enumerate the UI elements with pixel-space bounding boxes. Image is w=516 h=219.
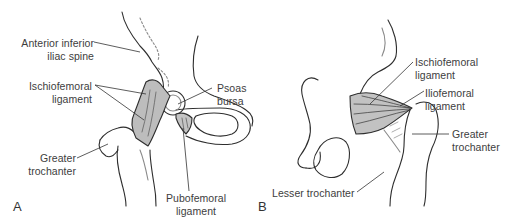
label-greater-trochanter-a: Greater trochanter bbox=[10, 152, 76, 177]
label-ischiofemoral-ligament-b: Ischiofemoral ligament bbox=[415, 56, 478, 81]
label-anterior-inferior-iliac-spine: Anterior inferior iliac spine bbox=[14, 37, 94, 62]
label-ischiofemoral-ligament-a: Ischiofemoral ligament bbox=[14, 80, 92, 105]
label-lesser-trochanter: Lesser trochanter bbox=[272, 187, 355, 200]
label-psoas-bursa: Psoas bursa bbox=[217, 82, 246, 107]
panel-letter-b: B bbox=[258, 199, 267, 214]
label-greater-trochanter-b: Greater trochanter bbox=[452, 128, 500, 153]
hip-ligament-diagram: Anterior inferior iliac spine Ischiofemo… bbox=[0, 0, 516, 219]
panel-b-drawing bbox=[298, 20, 438, 206]
label-iliofemoral-ligament: Iliofemoral ligament bbox=[425, 87, 474, 112]
panel-letter-a: A bbox=[13, 199, 22, 214]
panel-a-drawing bbox=[99, 12, 253, 206]
label-pubofemoral-ligament: Pubofemoral ligament bbox=[160, 192, 232, 217]
